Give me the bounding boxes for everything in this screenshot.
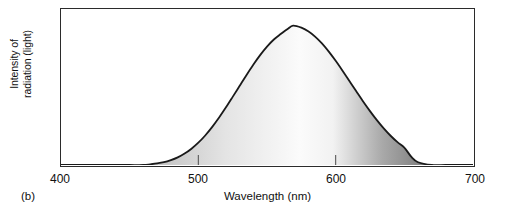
x-tick-label-400: 400 <box>35 172 85 186</box>
x-axis-title: Wavelength (nm) <box>60 190 475 202</box>
plot-area <box>60 8 475 167</box>
y-axis-title-line-2: radiation (light) <box>21 4 34 124</box>
x-tick-label-500: 500 <box>173 172 223 186</box>
spectrum-figure: Intensity of radiation (light) <box>0 0 509 212</box>
x-tick-label-600: 600 <box>311 172 361 186</box>
y-axis-title-line-1: Intensity of <box>8 4 21 124</box>
panel-letter: (b) <box>21 190 35 202</box>
y-axis-title: Intensity of radiation (light) <box>8 4 40 124</box>
spectrum-curve-plot <box>61 9 473 165</box>
x-tick-label-700: 700 <box>450 172 500 186</box>
